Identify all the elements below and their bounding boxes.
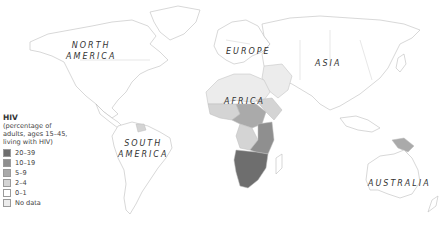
label-europe: EUROPE (226, 46, 271, 57)
legend-item: 10–19 (3, 158, 103, 168)
legend-items: 20–3910–195–92–40–1No data (3, 148, 103, 208)
legend-title: HIV (3, 113, 103, 122)
australia-landmass (366, 150, 420, 198)
legend-label: No data (15, 199, 41, 207)
legend-item: No data (3, 198, 103, 208)
legend-label: 20–39 (15, 149, 35, 157)
legend-item: 2–4 (3, 178, 103, 188)
legend-item: 0–1 (3, 188, 103, 198)
madagascar (276, 154, 282, 174)
legend-label: 2–4 (15, 179, 27, 187)
south-america-landmass (112, 122, 172, 214)
legend-label: 5–9 (15, 169, 27, 177)
legend-subtitle: (percentage of adults, ages 15–45, livin… (3, 122, 103, 146)
label-asia: ASIA (315, 58, 341, 69)
legend-item: 20–39 (3, 148, 103, 158)
southern-africa (234, 150, 268, 188)
north-america-landmass (30, 20, 168, 118)
new-zealand (428, 196, 438, 212)
japan (396, 54, 406, 72)
legend-swatch (3, 159, 11, 167)
legend-swatch (3, 169, 11, 177)
new-guinea (392, 138, 414, 152)
legend-swatch (3, 189, 11, 197)
label-africa: AFRICA (224, 96, 265, 107)
legend-swatch (3, 199, 11, 207)
legend: HIV (percentage of adults, ages 15–45, l… (3, 113, 103, 208)
legend-label: 10–19 (15, 159, 35, 167)
label-north-america: NORTH AMERICA (66, 40, 116, 62)
southeast-asia-islands (340, 116, 380, 132)
label-south-america: SOUTH AMERICA (118, 138, 168, 160)
greenland (150, 6, 200, 40)
legend-item: 5–9 (3, 168, 103, 178)
legend-swatch (3, 179, 11, 187)
legend-label: 0–1 (15, 189, 27, 197)
legend-swatch (3, 149, 11, 157)
label-australia: AUSTRALIA (368, 178, 431, 189)
europe-landmass (214, 20, 270, 64)
